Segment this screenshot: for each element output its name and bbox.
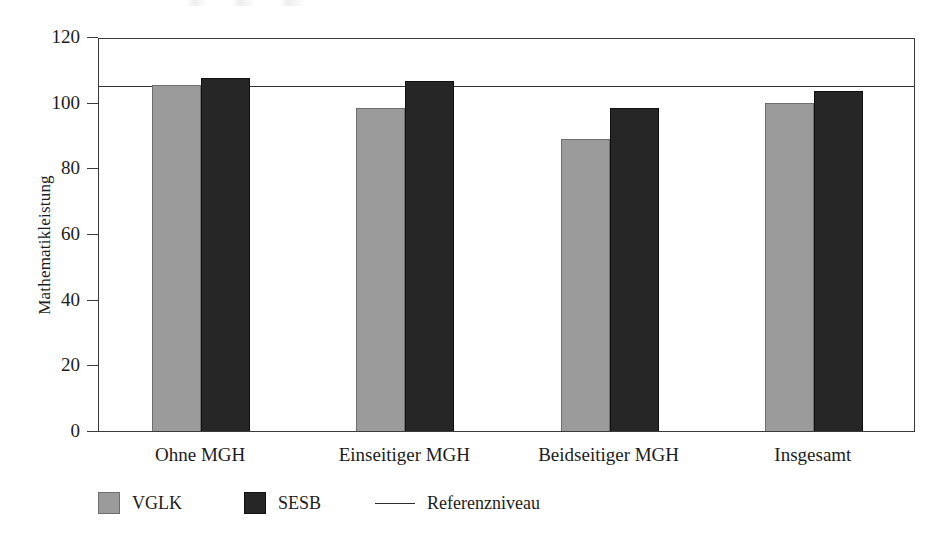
bar-group — [152, 37, 250, 431]
y-axis-title: Mathematikleistung — [35, 95, 55, 395]
bar-group — [561, 37, 659, 431]
bar-vglk-2 — [561, 139, 610, 431]
x-axis-label: Einseitiger MGH — [289, 444, 519, 466]
y-axis-tick-label: 0 — [71, 419, 81, 443]
y-axis-tick-label: 40 — [61, 288, 80, 312]
legend-swatch-vglk-icon — [98, 492, 120, 514]
scan-artifact — [186, 0, 336, 6]
y-axis-tick-mark — [87, 300, 98, 301]
bar-vglk-0 — [152, 85, 201, 431]
chart-figure: Mathematikleistung 020406080100120 Ohne … — [0, 0, 935, 540]
bar-sesb-2 — [610, 108, 659, 431]
bar-vglk-1 — [356, 108, 405, 431]
bar-vglk-3 — [765, 103, 814, 431]
bar-group — [765, 37, 863, 431]
y-axis-tick-label: 80 — [61, 156, 80, 180]
y-axis-tick-mark — [87, 365, 98, 366]
y-axis-tick-mark — [87, 168, 98, 169]
chart-legend: VGLK SESB Referenzniveau — [98, 492, 540, 514]
y-axis-tick-mark — [87, 103, 98, 104]
legend-label-referenzniveau: Referenzniveau — [427, 493, 540, 514]
x-axis-label: Ohne MGH — [85, 444, 315, 466]
y-axis-tick-mark — [87, 234, 98, 235]
x-axis-label: Insgesamt — [698, 444, 928, 466]
y-axis-tick-label: 120 — [52, 25, 81, 49]
legend-label-vglk: VGLK — [132, 493, 182, 514]
bar-sesb-3 — [814, 91, 863, 431]
bar-sesb-1 — [405, 81, 454, 431]
legend-item-sesb: SESB — [244, 492, 321, 514]
x-axis-label: Beidseitiger MGH — [494, 444, 724, 466]
legend-label-sesb: SESB — [278, 493, 321, 514]
y-axis-tick-label: 20 — [61, 353, 80, 377]
legend-swatch-sesb-icon — [244, 492, 266, 514]
legend-item-vglk: VGLK — [98, 492, 182, 514]
legend-swatch-line-icon — [375, 503, 415, 504]
bar-group — [356, 37, 454, 431]
y-axis-tick-label: 100 — [52, 91, 81, 115]
y-axis-tick-mark — [87, 431, 98, 432]
bar-sesb-0 — [201, 78, 250, 431]
y-axis-tick-label: 60 — [61, 222, 80, 246]
y-axis-tick-mark — [87, 37, 98, 38]
legend-item-referenzniveau: Referenzniveau — [375, 493, 540, 514]
plot-area — [98, 38, 915, 432]
